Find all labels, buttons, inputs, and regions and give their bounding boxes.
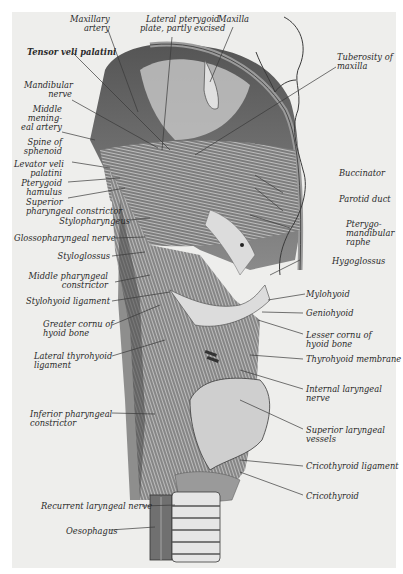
label-thyrohyoid-membrane: Thyrohyoid membrane xyxy=(306,355,401,364)
label-stylopharyngeus: Stylopharyngeus xyxy=(40,217,130,226)
label-internal-laryngeal-nerve: Internal laryngealnerve xyxy=(306,385,382,403)
label-cricothyroid-ligament: Cricothyroid ligament xyxy=(306,462,399,471)
label-lateral-thyrohyoid-ligament: Lateral thyrohyoidligament xyxy=(34,352,112,370)
label-cricothyroid: Cricothyroid xyxy=(306,492,359,501)
label-greater-cornu-hyoid: Greater cornu ofhyoid bone xyxy=(43,320,113,338)
label-oesophagus: Oesophagus xyxy=(66,527,117,536)
label-mylohyoid: Mylohyoid xyxy=(306,290,350,299)
label-geniohyoid: Geniohyoid xyxy=(306,309,354,318)
label-inferior-pharyngeal-constrictor: Inferior pharyngealconstrictor xyxy=(30,410,112,428)
label-levator-veli-palatini: Levator velipalatini xyxy=(14,160,62,178)
label-maxilla: Maxilla xyxy=(218,15,249,24)
label-middle-pharyngeal-constrictor: Middle pharyngealconstrictor xyxy=(20,272,108,290)
label-mandibular-nerve: Mandibularnerve xyxy=(24,81,72,99)
label-superior-laryngeal-vessels: Superior laryngealvessels xyxy=(306,426,385,444)
label-stylohyoid-ligament: Stylohyoid ligament xyxy=(20,297,110,306)
label-tensor-veli-palatini: Tensor veli palatini xyxy=(27,48,116,57)
label-superior-pharyngeal-constrictor: Superiorpharyngeal constrictor xyxy=(26,198,122,216)
label-middle-meningeal-artery: Middlemening-eal artery xyxy=(20,105,62,132)
label-lesser-cornu-hyoid: Lesser cornu ofhyoid bone xyxy=(306,331,371,349)
label-buccinator: Buccinator xyxy=(339,169,385,178)
label-pterygoid-hamulus: Pterygoidhamulus xyxy=(14,179,62,197)
label-glossopharyngeal-nerve: Glossopharyngeal nerve xyxy=(14,234,112,243)
label-parotid-duct: Parotid duct xyxy=(339,195,391,204)
label-spine-of-sphenoid: Spine ofsphenoid xyxy=(20,138,62,156)
label-hyoglossus: Hygoglossus xyxy=(332,257,385,266)
label-styloglossus: Styloglossus xyxy=(40,252,110,261)
label-maxillary-artery: Maxillaryartery xyxy=(70,15,110,33)
label-recurrent-laryngeal-nerve: Recurrent laryngeal nerve xyxy=(41,502,152,511)
label-pterygomandibular-raphe: Pterygo-mandibularraphe xyxy=(346,220,394,247)
label-tuberosity-of-maxilla: Tuberosity ofmaxilla xyxy=(337,53,393,71)
label-lateral-pterygoid-plate: Lateral pterygoidplate, partly excised xyxy=(140,15,225,33)
trachea xyxy=(172,492,220,562)
